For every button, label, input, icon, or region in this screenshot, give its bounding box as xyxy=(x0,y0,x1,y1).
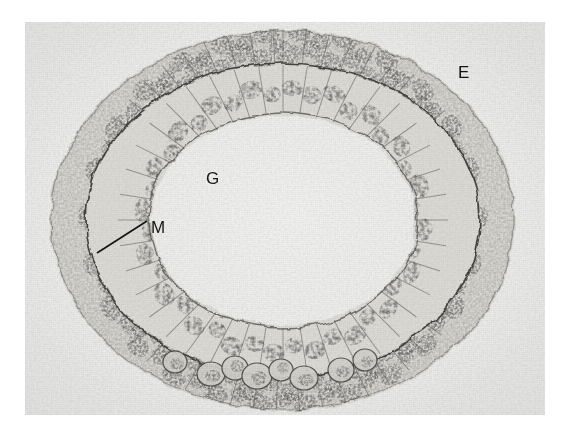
figure-canvas: E G M xyxy=(0,0,572,442)
label-g: G xyxy=(206,170,219,187)
leader-line-m xyxy=(90,214,160,264)
label-e: E xyxy=(458,64,470,81)
